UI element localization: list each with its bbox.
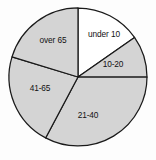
pie-slices-group bbox=[9, 8, 147, 146]
pie-chart: under 1010-2021-4041-65over 65 bbox=[0, 0, 156, 160]
pie-slice-label-10-20: 10-20 bbox=[103, 59, 124, 69]
pie-slice-label-over-65: over 65 bbox=[40, 35, 67, 45]
pie-chart-container: under 1010-2021-4041-65over 65 bbox=[0, 0, 156, 160]
pie-slice-label-41-65: 41-65 bbox=[30, 83, 51, 93]
pie-slice-label-under-10: under 10 bbox=[88, 29, 120, 39]
pie-slice-label-21-40: 21-40 bbox=[78, 110, 99, 120]
